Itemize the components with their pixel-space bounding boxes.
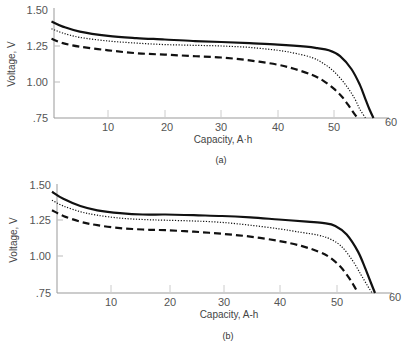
series-line-dashed bbox=[52, 39, 358, 118]
x-tick-label: 30 bbox=[218, 296, 230, 308]
series-group-a bbox=[52, 22, 374, 119]
x-tick-label: 60 bbox=[385, 116, 397, 128]
x-axis-a: 10 20 30 40 50 60 Capacity, A·h bbox=[54, 110, 397, 145]
y-tick-label: .75 bbox=[33, 112, 48, 124]
y-tick-label: 1.25 bbox=[27, 40, 48, 52]
x-tick-label: 20 bbox=[161, 121, 173, 133]
x-axis-title: Capacity, A·h bbox=[194, 134, 253, 145]
x-tick-label: 10 bbox=[105, 296, 117, 308]
y-tick-label: 1.25 bbox=[30, 214, 51, 226]
y-axis-title: Voltage, V bbox=[8, 217, 19, 263]
series-line-solid bbox=[52, 22, 374, 119]
x-tick-label: 30 bbox=[215, 121, 227, 133]
x-tick-label: 60 bbox=[389, 291, 401, 303]
y-tick-label: 1.00 bbox=[27, 76, 48, 88]
y-axis-b: 1.50 1.25 1.00 .75 Voltage, V bbox=[8, 179, 63, 299]
x-tick-label: 10 bbox=[102, 121, 114, 133]
series-line-solid bbox=[52, 192, 375, 293]
x-tick-label: 40 bbox=[272, 121, 284, 133]
x-tick-label: 50 bbox=[331, 296, 343, 308]
y-tick-label: 1.00 bbox=[30, 250, 51, 262]
y-tick-label: 1.50 bbox=[27, 4, 48, 16]
x-axis-title: Capacity, A-h bbox=[200, 309, 259, 320]
x-tick-label: 40 bbox=[274, 296, 286, 308]
chart-panel-b: 1.50 1.25 1.00 .75 Voltage, V 10 20 30 4… bbox=[8, 179, 401, 341]
battery-discharge-figure: 1.50 1.25 1.00 .75 Voltage, V 10 20 30 4… bbox=[0, 0, 403, 346]
x-axis-b: 10 20 30 40 50 60 Capacity, A-h bbox=[57, 285, 401, 320]
y-axis-title: Voltage, V bbox=[6, 41, 17, 87]
series-group-b bbox=[52, 192, 375, 293]
panel-label-a: (a) bbox=[216, 155, 227, 165]
y-tick-label: .75 bbox=[36, 287, 51, 299]
series-line-dotted bbox=[52, 200, 372, 293]
chart-panel-a: 1.50 1.25 1.00 .75 Voltage, V 10 20 30 4… bbox=[6, 4, 397, 165]
panel-label-b: (b) bbox=[223, 331, 234, 341]
x-tick-label: 50 bbox=[328, 121, 340, 133]
y-tick-label: 1.50 bbox=[30, 179, 51, 191]
x-tick-label: 20 bbox=[164, 296, 176, 308]
